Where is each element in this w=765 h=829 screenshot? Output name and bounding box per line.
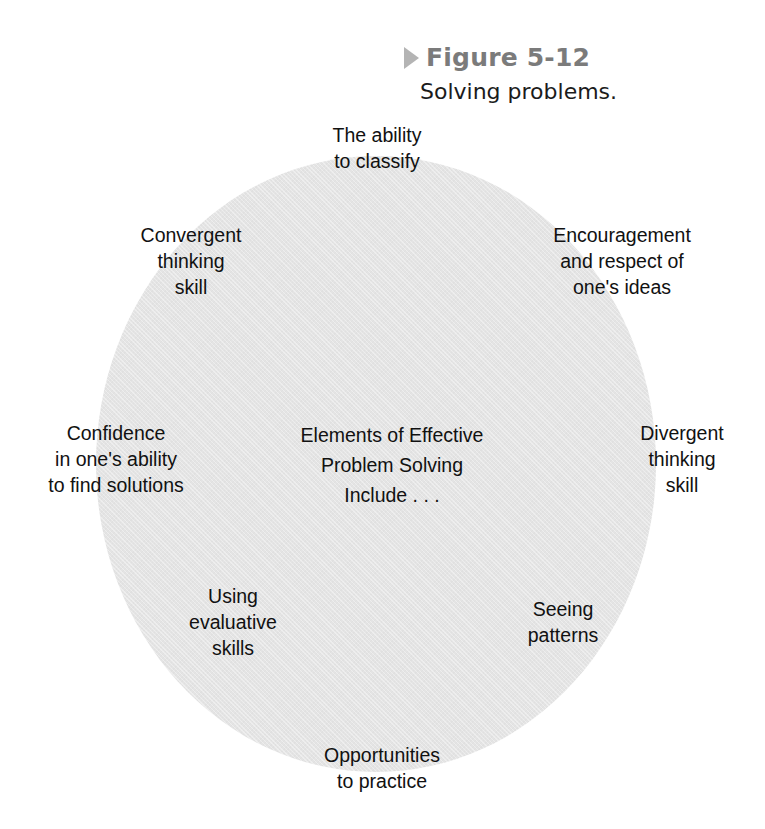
diagram-label-divergent: Divergent thinking skill (612, 420, 752, 498)
diagram-label-convergent: Convergent thinking skill (100, 222, 282, 300)
diagram-label-encouragement: Encouragement and respect of one's ideas (512, 222, 732, 300)
diagram-label-evaluative: Using evaluative skills (148, 583, 318, 661)
diagram-center-label: Elements of Effective Problem Solving In… (272, 420, 512, 510)
diagram-label-patterns: Seeing patterns (488, 596, 638, 648)
diagram-label-opportunities: Opportunities to practice (282, 742, 482, 794)
figure-page: Figure 5-12 Solving problems. The abilit… (0, 0, 765, 829)
solving-problems-diagram: The ability to classify Convergent think… (0, 0, 765, 829)
diagram-label-classify: The ability to classify (291, 122, 463, 174)
diagram-label-confidence: Confidence in one's ability to find solu… (10, 420, 222, 498)
